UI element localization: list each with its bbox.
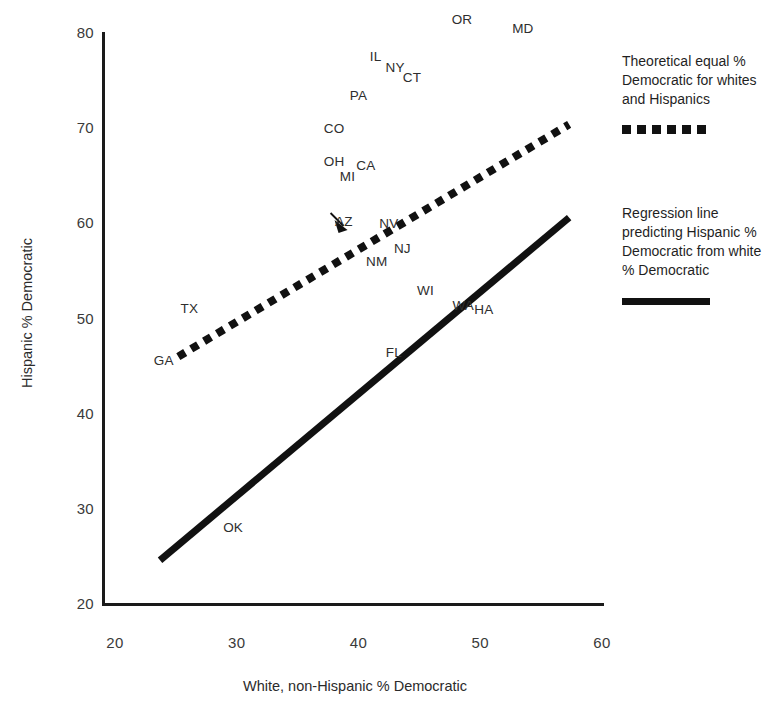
y-axis-title: Hispanic % Democratic — [19, 213, 35, 413]
data-label-ct: CT — [403, 69, 421, 84]
x-tick-60: 60 — [582, 634, 622, 651]
data-label-md: MD — [512, 21, 533, 36]
data-label-or: OR — [452, 11, 473, 26]
solid-line-swatch — [622, 298, 710, 305]
data-label-nj: NJ — [394, 241, 411, 256]
x-tick-40: 40 — [339, 634, 379, 651]
data-label-pa: PA — [350, 87, 367, 102]
y-axis-line — [102, 32, 105, 606]
y-tick-70: 70 — [52, 119, 94, 136]
data-label-il: IL — [370, 48, 382, 63]
x-tick-20: 20 — [95, 634, 135, 651]
data-label-ha: HA — [474, 301, 493, 316]
data-label-ok: OK — [223, 519, 243, 534]
y-tick-60: 60 — [52, 214, 94, 231]
legend-label-regression: Regression line predicting Hispanic % De… — [622, 204, 768, 280]
regression-line — [160, 218, 569, 561]
legend-entry-theoretical: Theoretical equal % Democratic for white… — [622, 52, 768, 134]
x-axis-title: White, non-Hispanic % Democratic — [185, 678, 525, 694]
y-tick-80: 80 — [52, 24, 94, 41]
data-label-fl: FL — [386, 344, 402, 359]
data-label-nm: NM — [366, 254, 387, 269]
x-axis-line — [102, 603, 604, 606]
x-tick-30: 30 — [217, 634, 257, 651]
data-label-ca: CA — [356, 158, 375, 173]
legend-label-theoretical: Theoretical equal % Democratic for white… — [622, 52, 768, 109]
data-label-co: CO — [324, 121, 345, 136]
y-tick-40: 40 — [52, 405, 94, 422]
data-label-nv: NV — [379, 216, 398, 231]
y-tick-50: 50 — [52, 310, 94, 327]
data-label-wi: WI — [417, 282, 434, 297]
x-tick-50: 50 — [460, 634, 500, 651]
data-label-ga: GA — [154, 353, 174, 368]
scatter-plot-figure: 20304050607080 2030405060 Hispanic % Dem… — [0, 0, 768, 702]
y-tick-30: 30 — [52, 500, 94, 517]
data-label-ny: NY — [385, 60, 404, 75]
legend-entry-regression: Regression line predicting Hispanic % De… — [622, 204, 768, 305]
data-label-wa: WA — [452, 298, 474, 313]
data-label-tx: TX — [180, 301, 198, 316]
y-tick-20: 20 — [52, 595, 94, 612]
data-label-az: AZ — [335, 214, 353, 229]
data-label-oh: OH — [324, 154, 345, 169]
legend: Theoretical equal % Democratic for white… — [622, 52, 768, 311]
dotted-line-swatch — [622, 125, 712, 134]
data-label-mi: MI — [340, 168, 355, 183]
